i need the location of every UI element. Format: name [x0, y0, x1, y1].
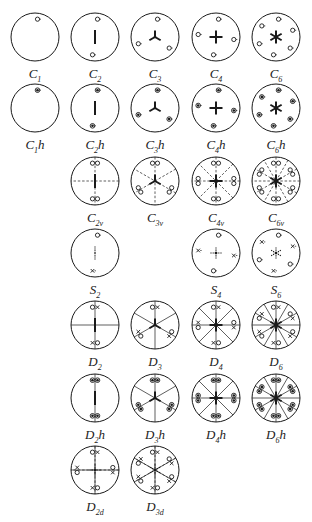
stereogram-circle-icon: [69, 227, 121, 279]
stereogram-c6v: C6v: [246, 155, 306, 227]
stereogram-circle-icon: [129, 299, 181, 351]
stereogram-d3h: D3h: [125, 372, 185, 444]
stereogram-circle-icon: [250, 82, 302, 134]
stereogram-circle-icon: [190, 299, 242, 351]
stereogram-c3v: C3v: [125, 155, 185, 227]
stereogram-d6: D6: [246, 299, 306, 371]
stereogram-c3h: C3h: [125, 82, 185, 154]
stereogram-circle-icon: [69, 444, 121, 496]
stereogram-circle-icon: [250, 11, 302, 63]
stereogram-c4h: C4h: [186, 82, 246, 154]
stereogram-circle-icon: [9, 82, 61, 134]
point-group-label: D2d: [65, 500, 125, 520]
stereogram-circle-icon: [69, 11, 121, 63]
stereogram-c1: C1: [5, 11, 65, 83]
stereogram-circle-icon: [190, 372, 242, 424]
point-group-label: C1h: [5, 138, 65, 158]
stereogram-s2: S2: [65, 227, 125, 299]
stereogram-circle-icon: [190, 11, 242, 63]
stereogram-circle-icon: [250, 155, 302, 207]
stereogram-d3d: D3d: [125, 444, 185, 516]
stereogram-circle-icon: [250, 227, 302, 279]
stereogram-circle-icon: [190, 155, 242, 207]
stereogram-d4h: D4h: [186, 372, 246, 444]
stereogram-d2h: D2h: [65, 372, 125, 444]
point-group-label: D6h: [246, 428, 306, 448]
stereogram-d3: D3: [125, 299, 185, 371]
point-group-label: D3d: [125, 500, 185, 520]
stereogram-c4v: C4v: [186, 155, 246, 227]
stereogram-c4: C4: [186, 11, 246, 83]
stereogram-d2: D2: [65, 299, 125, 371]
stereogram-c2h: C2h: [65, 82, 125, 154]
stereogram-circle-icon: [69, 299, 121, 351]
stereogram-circle-icon: [250, 299, 302, 351]
stereogram-c1h: C1h: [5, 82, 65, 154]
stereogram-circle-icon: [9, 11, 61, 63]
stereogram-circle-icon: [129, 155, 181, 207]
stereogram-c6: C6: [246, 11, 306, 83]
stereogram-c2v: C2v: [65, 155, 125, 227]
point-group-label: C3v: [125, 211, 185, 231]
stereogram-c6h: C6h: [246, 82, 306, 154]
stereogram-circle-icon: [250, 372, 302, 424]
stereogram-d4: D4: [186, 299, 246, 371]
stereogram-c3: C3: [125, 11, 185, 83]
stereogram-s6: S6: [246, 227, 306, 299]
stereogram-circle-icon: [129, 11, 181, 63]
stereogram-d2d: D2d: [65, 444, 125, 516]
stereogram-circle-icon: [69, 155, 121, 207]
stereogram-circle-icon: [69, 82, 121, 134]
point-group-label: D4h: [186, 428, 246, 448]
stereogram-circle-icon: [190, 82, 242, 134]
point-group-stereogram-figure: C1C2C3C4C6C1hC2hC3hC4hC6hC2vC3vC4vC6vS2S…: [0, 0, 312, 522]
stereogram-s4: S4: [186, 227, 246, 299]
stereogram-circle-icon: [129, 82, 181, 134]
stereogram-circle-icon: [190, 227, 242, 279]
stereogram-d6h: D6h: [246, 372, 306, 444]
stereogram-circle-icon: [129, 372, 181, 424]
stereogram-circle-icon: [129, 444, 181, 496]
stereogram-circle-icon: [69, 372, 121, 424]
stereogram-c2: C2: [65, 11, 125, 83]
